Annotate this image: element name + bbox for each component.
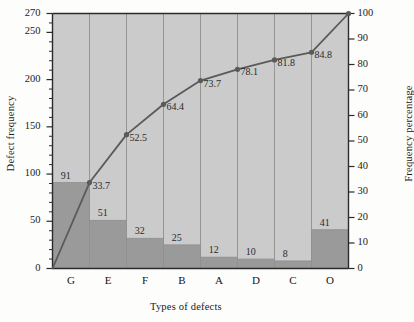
- x-category-label-E: E: [88, 274, 128, 286]
- cumulative-label-A: 78.1: [241, 66, 259, 77]
- bar-value-label-A: 12: [209, 244, 219, 255]
- cumulative-label-G: 33.7: [93, 180, 111, 191]
- bar-value-label-F: 32: [135, 225, 145, 236]
- bar-value-label-G: 91: [61, 170, 71, 181]
- y-tick-label-right-50: 50: [358, 134, 388, 145]
- cumulative-label-B: 73.7: [204, 78, 222, 89]
- x-category-label-F: F: [125, 274, 165, 286]
- y-tick-label-right-40: 40: [358, 160, 388, 171]
- cumulative-label-E: 52.5: [130, 132, 148, 143]
- y-tick-label-right-20: 20: [358, 211, 388, 222]
- y-tick-label-left-270: 270: [11, 7, 41, 18]
- y-tick-label-right-0: 0: [358, 262, 388, 273]
- y-tick-label-right-100: 100: [358, 7, 388, 18]
- x-category-label-B: B: [162, 274, 202, 286]
- x-category-label-A: A: [199, 274, 239, 286]
- y-tick-label-right-30: 30: [358, 185, 388, 196]
- x-category-label-O: O: [310, 274, 350, 286]
- y-tick-label-left-250: 250: [11, 25, 41, 36]
- y-tick-label-left-0: 0: [11, 262, 41, 273]
- bar-value-label-E: 51: [98, 207, 108, 218]
- y-tick-label-left-200: 200: [11, 73, 41, 84]
- y-tick-label-left-150: 150: [11, 120, 41, 131]
- cumulative-label-D: 81.8: [278, 57, 296, 68]
- y-tick-label-left-100: 100: [11, 167, 41, 178]
- x-category-label-C: C: [273, 274, 313, 286]
- bar-value-label-O: 41: [320, 217, 330, 228]
- y-tick-label-right-10: 10: [358, 236, 388, 247]
- bar-value-label-C: 8: [283, 248, 288, 259]
- x-category-label-D: D: [236, 274, 276, 286]
- y-tick-label-right-90: 90: [358, 32, 388, 43]
- y-tick-label-right-70: 70: [358, 83, 388, 94]
- x-category-label-G: G: [51, 274, 91, 286]
- cumulative-label-F: 64.4: [167, 101, 185, 112]
- bar-value-label-B: 25: [172, 232, 182, 243]
- bar-value-label-D: 10: [246, 246, 256, 257]
- y-tick-label-right-80: 80: [358, 58, 388, 69]
- cumulative-label-C: 84.8: [315, 49, 333, 60]
- y-tick-label-right-60: 60: [358, 109, 388, 120]
- y-tick-label-left-50: 50: [11, 214, 41, 225]
